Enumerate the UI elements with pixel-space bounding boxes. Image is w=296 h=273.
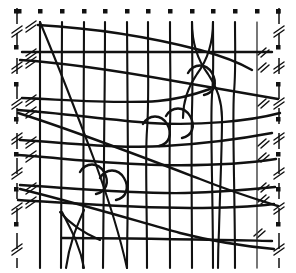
top-marker-dot	[82, 9, 87, 14]
vertical-strand	[146, 22, 148, 268]
top-marker-dot	[103, 9, 108, 14]
horizontal-strand	[22, 89, 210, 102]
top-marker-dot	[233, 9, 238, 14]
interior-hash-tick	[26, 197, 36, 208]
interior-hash-tick	[258, 99, 269, 108]
top-marker-dot	[168, 9, 173, 14]
left-boundary-dot	[14, 117, 19, 122]
top-marker-dot	[276, 9, 281, 14]
interior-hash-tick	[254, 229, 265, 238]
top-marker-dot	[60, 9, 65, 14]
interior-hash-tick	[26, 21, 36, 32]
interior-hash-tick	[258, 63, 269, 72]
left-boundary-dot	[14, 187, 19, 192]
top-marker-dot	[255, 9, 260, 14]
interior-hash-tick	[26, 137, 36, 148]
horizontal-strand	[62, 238, 272, 241]
right-boundary-dot	[276, 222, 281, 227]
crossing-arc	[192, 22, 222, 118]
vertical-strand	[127, 22, 128, 268]
left-boundary-dot	[14, 45, 19, 50]
interior-hash-tick	[26, 95, 36, 106]
curve-system-diagram	[0, 0, 296, 273]
top-marker-dot	[211, 9, 216, 14]
left-boundary-hash-tick	[12, 98, 22, 109]
right-boundary-dot	[276, 82, 281, 87]
left-boundary-dot	[14, 222, 19, 227]
right-boundary-dot	[276, 117, 281, 122]
crossing-arc	[60, 212, 100, 240]
vertical-strand	[233, 22, 235, 268]
top-marker-dot	[190, 9, 195, 14]
left-boundary-group	[12, 8, 22, 268]
vertical-strand	[61, 22, 62, 268]
top-marker-dot	[125, 9, 130, 14]
interior-hash-tick	[258, 139, 269, 148]
top-marker-dot	[38, 9, 43, 14]
right-boundary-group	[274, 8, 284, 268]
top-marker-dot	[17, 9, 22, 14]
figure-root	[0, 0, 296, 273]
right-boundary-dot	[276, 187, 281, 192]
horizontal-strand	[38, 25, 252, 70]
top-marker-dot	[146, 9, 151, 14]
right-boundary-dot	[276, 45, 281, 50]
vertical-strand	[211, 22, 213, 268]
top-marker-group	[17, 9, 281, 14]
left-boundary-dot	[14, 82, 19, 87]
right-boundary-dot	[276, 152, 281, 157]
